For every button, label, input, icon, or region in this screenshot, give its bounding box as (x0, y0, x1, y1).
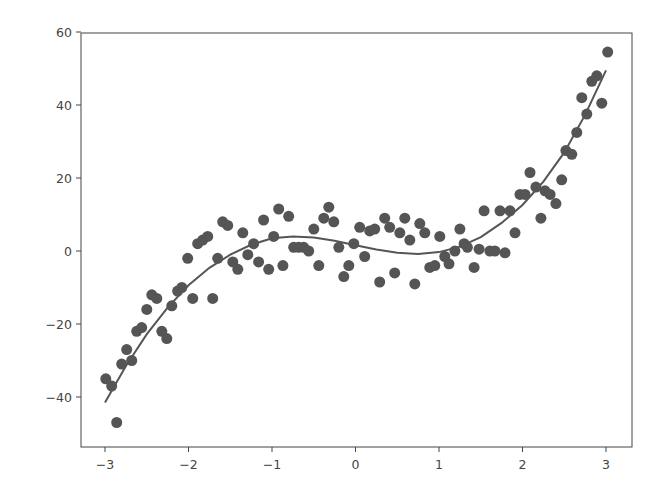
data-point (474, 244, 485, 255)
data-point (505, 205, 516, 216)
data-point (556, 174, 567, 185)
data-point (500, 247, 511, 258)
scatter-chart: −3−2−10123 −40−200204060 (0, 0, 665, 498)
data-point (141, 304, 152, 315)
data-point (237, 227, 248, 238)
data-point (207, 293, 218, 304)
data-point (581, 109, 592, 120)
y-tick-label: 60 (56, 25, 72, 40)
data-point (389, 267, 400, 278)
data-point (232, 264, 243, 275)
data-point (338, 271, 349, 282)
data-point (429, 260, 440, 271)
data-point (323, 202, 334, 213)
y-tick-label: 20 (56, 171, 72, 186)
data-point (318, 213, 329, 224)
data-point (187, 293, 198, 304)
data-point (308, 224, 319, 235)
data-point (462, 242, 473, 253)
data-point (303, 246, 314, 257)
data-point (444, 258, 455, 269)
y-axis: −40−200204060 (46, 25, 81, 405)
x-tick-label: −1 (263, 457, 281, 472)
fit-line (105, 70, 606, 402)
x-tick-label: 0 (352, 457, 360, 472)
data-point (409, 278, 420, 289)
data-point (343, 260, 354, 271)
data-point (369, 224, 380, 235)
data-point (283, 211, 294, 222)
data-point (535, 213, 546, 224)
data-point (333, 242, 344, 253)
data-point (419, 227, 430, 238)
data-point (126, 355, 137, 366)
data-point (313, 260, 324, 271)
x-tick-label: 3 (602, 457, 610, 472)
data-point (121, 344, 132, 355)
x-axis: −3−2−10123 (96, 447, 610, 472)
data-point (182, 253, 193, 264)
data-point (277, 260, 288, 271)
data-point (106, 381, 117, 392)
data-point (359, 251, 370, 262)
data-point (454, 224, 465, 235)
x-tick-label: −3 (96, 457, 114, 472)
data-point (434, 231, 445, 242)
y-tick-label: 0 (64, 244, 72, 259)
data-points (100, 47, 613, 428)
fit-curve (105, 70, 606, 402)
data-point (525, 167, 536, 178)
data-point (571, 127, 582, 138)
data-point (510, 227, 521, 238)
data-point (545, 189, 556, 200)
data-point (404, 235, 415, 246)
data-point (253, 256, 264, 267)
data-point (222, 220, 233, 231)
data-point (479, 205, 490, 216)
data-point (520, 189, 531, 200)
data-point (449, 246, 460, 257)
data-point (176, 282, 187, 293)
data-point (273, 204, 284, 215)
data-point (576, 92, 587, 103)
data-point (328, 216, 339, 227)
data-point (242, 249, 253, 260)
data-point (399, 213, 410, 224)
data-point (384, 222, 395, 233)
data-point (151, 293, 162, 304)
data-point (495, 205, 506, 216)
data-point (394, 227, 405, 238)
x-tick-label: 2 (519, 457, 527, 472)
y-tick-label: −20 (46, 317, 72, 332)
data-point (161, 333, 172, 344)
data-point (248, 238, 259, 249)
data-point (566, 149, 577, 160)
data-point (263, 264, 274, 275)
data-point (212, 253, 223, 264)
data-point (111, 417, 122, 428)
data-point (602, 47, 613, 58)
data-point (166, 300, 177, 311)
data-point (374, 277, 385, 288)
data-point (268, 231, 279, 242)
data-point (136, 322, 147, 333)
data-point (550, 198, 561, 209)
data-point (489, 246, 500, 257)
data-point (258, 215, 269, 226)
x-tick-label: −2 (179, 457, 197, 472)
y-tick-label: −40 (46, 390, 72, 405)
data-point (202, 231, 213, 242)
data-point (596, 98, 607, 109)
data-point (348, 238, 359, 249)
y-tick-label: 40 (56, 98, 72, 113)
data-point (591, 70, 602, 81)
data-point (354, 222, 365, 233)
data-point (469, 262, 480, 273)
x-tick-label: 1 (435, 457, 443, 472)
data-point (116, 359, 127, 370)
